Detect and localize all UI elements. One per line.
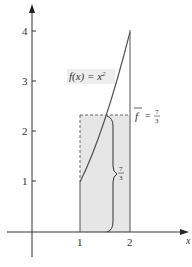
y-tick-label-1: 1: [22, 175, 28, 187]
average-value-denominator: 3: [155, 117, 159, 125]
y-axis-arrow-icon: [29, 4, 35, 13]
y-tick-label-3: 3: [22, 75, 28, 87]
brace-label-denominator: 3: [119, 174, 123, 182]
x-axis-label: x: [185, 235, 191, 246]
average-value-numerator: 7: [155, 108, 159, 116]
average-label-f: f: [135, 110, 140, 122]
average-value-rectangle: [80, 115, 130, 232]
y-tick-label-2: 2: [22, 125, 28, 137]
x-tick-label-1: 1: [77, 236, 83, 248]
brace-label-numerator: 7: [119, 165, 123, 173]
average-label-equals: =: [145, 110, 151, 121]
average-value-figure: 4 3 2 1 1 2 x f(x) = x2 f = 7 3 7 3: [0, 0, 192, 267]
function-label: f(x) = x2: [69, 70, 106, 83]
y-tick-label-4: 4: [22, 25, 28, 37]
x-tick-label-2: 2: [127, 236, 133, 248]
